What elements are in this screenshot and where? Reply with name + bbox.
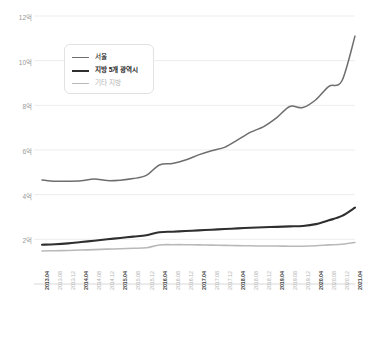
x-tick-label: 2019.04 <box>279 271 285 290</box>
x-tick-label: 2015.12 <box>149 271 155 290</box>
x-tick-label: 2020.12 <box>344 271 350 290</box>
x-tick-label: 2014.08 <box>96 271 102 290</box>
x-tick-label: 2016.12 <box>188 271 194 290</box>
x-tick-label: 2017.08 <box>214 271 220 290</box>
x-tick-label: 2013.08 <box>57 271 63 290</box>
legend-swatch-other-regions <box>72 83 89 84</box>
x-tick-label: 2013.12 <box>70 271 76 290</box>
x-tick-label: 2020.08 <box>331 271 337 290</box>
x-tick-label: 2014.12 <box>109 271 115 290</box>
x-tick-label: 2016.08 <box>175 271 181 290</box>
y-tick-label: 4억 <box>6 191 32 201</box>
x-tick-label: 2019.08 <box>292 271 298 290</box>
legend-swatch-seoul <box>72 57 89 58</box>
x-tick-label: 2017.12 <box>227 271 233 290</box>
legend-label-other-regions: 기타 지방 <box>95 80 121 87</box>
legend-label-metro-cities: 지방 5개 광역시 <box>95 67 138 74</box>
x-tick-label: 2015.08 <box>135 271 141 290</box>
x-tick-label: 2021.04 <box>357 271 363 290</box>
y-tick-label: 2억 <box>6 235 32 245</box>
x-tick-label: 2016.04 <box>162 271 168 290</box>
x-tick-label: 2019.12 <box>305 271 311 290</box>
legend-item-metro-cities: 지방 5개 광역시 <box>72 64 146 77</box>
x-tick-label: 2015.04 <box>122 271 128 290</box>
x-tick-label: 2017.04 <box>201 271 207 290</box>
y-tick-label: 12억 <box>6 12 32 22</box>
x-tick-label: 2018.12 <box>266 271 272 290</box>
y-tick-label: 8억 <box>6 101 32 111</box>
chart-canvas <box>0 0 371 340</box>
chart-legend: 서울 지방 5개 광역시 기타 지방 <box>64 44 154 94</box>
x-tick-label: 2013.04 <box>44 271 50 290</box>
series-line-2 <box>42 242 355 250</box>
line-chart: 2억4억6억8억10억12억 2013.042013.082013.122014… <box>0 0 371 340</box>
x-tick-label: 2018.08 <box>253 271 259 290</box>
y-tick-label: 10억 <box>6 57 32 67</box>
x-tick-label: 2020.04 <box>318 271 324 290</box>
x-tick-label: 2018.04 <box>240 271 246 290</box>
legend-item-seoul: 서울 <box>72 51 146 64</box>
legend-swatch-metro-cities <box>72 70 89 72</box>
legend-label-seoul: 서울 <box>95 54 107 61</box>
y-tick-label: 6억 <box>6 146 32 156</box>
x-tick-label: 2014.04 <box>83 271 89 290</box>
legend-item-other-regions: 기타 지방 <box>72 77 146 90</box>
